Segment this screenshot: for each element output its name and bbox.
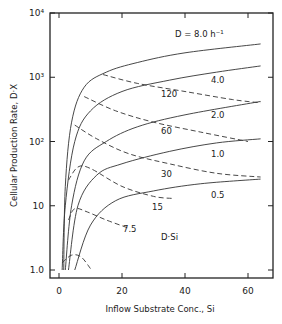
y-axis-label: Cellular Production Rate, D·X	[9, 84, 19, 207]
curve-label: 120	[161, 89, 177, 99]
curve-label: 0.5	[211, 190, 225, 200]
x-tick-label: 0	[56, 286, 62, 296]
dashed-curve	[103, 75, 261, 103]
solid-curve	[75, 179, 261, 270]
solid-curve	[68, 139, 260, 270]
y-tick-label: 10³	[29, 72, 44, 82]
curve-label: 15	[152, 202, 163, 212]
y-tick-label: 10²	[29, 137, 44, 147]
x-axis-label: Inflow Substrate Conc., Si	[105, 304, 214, 314]
curve-label: D·Si	[161, 232, 178, 242]
y-tick-label: 10	[33, 201, 45, 211]
curve-label: 60	[161, 126, 172, 136]
curve-label: D = 8.0 h⁻¹	[175, 29, 224, 39]
axis-ticks: 02040601.01010²10³10⁴	[29, 8, 273, 296]
x-tick-label: 20	[116, 286, 128, 296]
y-tick-label: 10⁴	[29, 8, 44, 18]
dashed-curve	[68, 166, 172, 199]
curve-label: 4.0	[211, 75, 225, 85]
dashed-curve	[68, 208, 128, 228]
y-tick-label: 1.0	[30, 265, 45, 275]
curve-label: 1.0	[211, 149, 225, 159]
chart: 02040601.01010²10³10⁴ D = 8.0 h⁻¹4.02.01…	[0, 0, 282, 324]
curve-label: 2.0	[211, 110, 225, 120]
x-tick-label: 40	[179, 286, 191, 296]
curve-label: 30	[161, 169, 172, 179]
curve-label: 7.5	[123, 224, 137, 234]
x-tick-label: 60	[242, 286, 254, 296]
